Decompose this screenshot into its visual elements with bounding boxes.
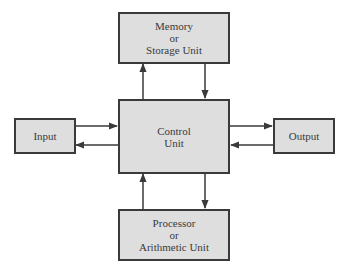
processor-label-line1: Processor (153, 217, 196, 229)
input-box: Input (14, 118, 76, 154)
input-label: Input (33, 130, 56, 142)
memory-label-line2: or (169, 32, 178, 44)
control-label-line1: Control (157, 125, 191, 137)
control-label-line2: Unit (164, 137, 184, 149)
memory-storage-unit-box: Memory or Storage Unit (118, 12, 230, 64)
memory-label-line3: Storage Unit (146, 44, 202, 56)
output-label: Output (289, 130, 320, 142)
processor-arithmetic-unit-box: Processor or Arithmetic Unit (118, 209, 230, 261)
processor-label-line2: or (169, 229, 178, 241)
control-unit-box: Control Unit (118, 99, 230, 174)
output-box: Output (273, 118, 335, 154)
memory-label-line1: Memory (155, 20, 193, 32)
processor-label-line3: Arithmetic Unit (139, 241, 209, 253)
